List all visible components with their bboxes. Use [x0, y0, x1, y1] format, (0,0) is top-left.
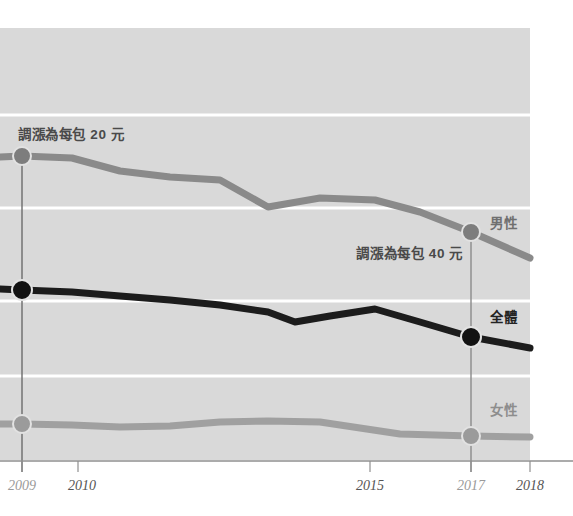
chart-container: 調漲為每包 20 元 調漲為每包 40 元 男性 全體 女性 2009 2010…: [0, 0, 573, 516]
annotation-label-2009: 調漲為每包 20 元: [18, 126, 125, 142]
marker-male-2017[interactable]: [462, 223, 480, 241]
series-label-male: 男性: [490, 215, 518, 231]
marker-female-2009[interactable]: [13, 415, 31, 433]
marker-total-2017[interactable]: [461, 327, 481, 347]
marker-total-2009[interactable]: [12, 280, 32, 300]
x-tick-label-2009: 2009: [8, 478, 36, 493]
x-tick-label-2018: 2018: [516, 478, 544, 493]
x-tick-label-2015: 2015: [356, 478, 384, 493]
marker-male-2009[interactable]: [13, 147, 31, 165]
plot-background: [0, 28, 530, 460]
series-label-female: 女性: [490, 402, 518, 418]
marker-female-2017[interactable]: [462, 427, 480, 445]
x-tick-label-2017: 2017: [457, 478, 486, 493]
line-chart: 調漲為每包 20 元 調漲為每包 40 元 男性 全體 女性 2009 2010…: [0, 0, 573, 516]
series-label-total: 全體: [489, 309, 518, 325]
x-tick-label-2010: 2010: [68, 478, 96, 493]
x-axis-ticks: [22, 461, 530, 472]
annotation-label-2017: 調漲為每包 40 元: [356, 245, 463, 261]
